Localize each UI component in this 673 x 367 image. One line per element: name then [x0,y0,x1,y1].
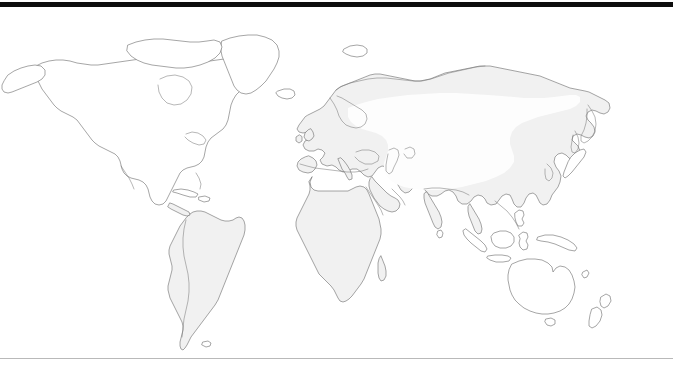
top-rule-divider [0,2,673,7]
bottom-rule-divider [0,358,673,359]
landmass-iceland [276,89,295,99]
world-map-svg [0,9,673,356]
landmass-alaska [2,65,45,93]
landmass-borneo [491,231,514,248]
landmass-new-caledonia [582,270,589,278]
landmass-java [487,255,511,262]
world-map-figure [0,9,673,356]
landmass-iberia [297,156,317,173]
landmass-madagascar [378,256,386,281]
landmass-south-america [168,211,245,350]
landmass-tasmania [545,318,555,326]
landmass-sri-lanka [437,230,443,238]
figure-page [0,0,673,367]
landmass-central-america [168,203,190,216]
landmass-sumatra [463,229,487,252]
landmass-hispaniola [199,196,210,202]
landmass-indochina [468,204,482,234]
landmass-africa [296,177,381,302]
border-detail-florida [196,173,201,189]
landmass-new-guinea [537,235,577,251]
landmass-cuba [173,189,198,197]
landmass-sulawesi [519,232,528,250]
landmass-new-zealand-south [589,307,602,328]
landmass-new-zealand-north [600,294,611,308]
landmass-falkland-islands [202,341,211,347]
landmass-north-america [35,58,256,205]
landmass-india [424,192,442,229]
landmass-ireland [296,135,302,143]
landmass-australia [508,259,575,314]
landmass-svalbard [343,45,367,57]
